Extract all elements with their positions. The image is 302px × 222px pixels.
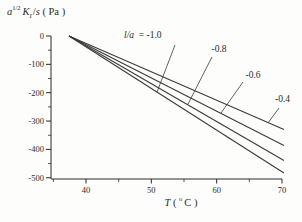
x-tick-label: 50 <box>147 185 156 195</box>
axis-title-part: ( <box>170 197 179 208</box>
curve-l-over-a--0.8 <box>69 36 284 160</box>
leader-line-3 <box>268 108 279 123</box>
line-chart: 0-100-200-300-400-50040506070l/a = -1.0-… <box>0 0 302 222</box>
y-tick-label: -100 <box>28 59 44 69</box>
axis-title-part: K <box>23 6 30 17</box>
axis-title-part: 1/2 <box>12 4 20 11</box>
y-tick-label: -200 <box>28 88 44 98</box>
curve-label-2: -0.6 <box>245 70 260 80</box>
axis-title-part: C ) <box>184 197 197 208</box>
curve-l-over-a--0.4 <box>69 36 284 130</box>
y-tick-label: -500 <box>28 173 44 183</box>
curve-l-over-a--0.6 <box>69 36 284 145</box>
y-axis-title: a1/2KI/s ( Pa ) <box>7 4 65 19</box>
curve-label-1: -0.8 <box>211 44 226 54</box>
leader-line-2 <box>221 82 243 113</box>
x-tick-label: 60 <box>212 185 221 195</box>
y-tick-label: -300 <box>28 116 44 126</box>
y-tick-label: 0 <box>40 31 44 41</box>
figure-thermal-stress-chart: 0-100-200-300-400-50040506070l/a = -1.0-… <box>0 0 302 222</box>
x-tick-label: 70 <box>278 185 287 195</box>
y-tick-label: -400 <box>28 144 44 154</box>
x-tick-label: 40 <box>82 185 91 195</box>
x-axis-title: T ( oC ) <box>148 195 214 208</box>
axis-title-part: ( Pa ) <box>40 6 65 17</box>
curve-l-over-a--1 <box>69 36 284 173</box>
curve-label-3: -0.4 <box>275 94 290 104</box>
axis-title-part: o <box>179 195 182 202</box>
axis-title-part: I <box>30 12 32 19</box>
curve-label-0: l/a = -1.0 <box>124 30 162 40</box>
